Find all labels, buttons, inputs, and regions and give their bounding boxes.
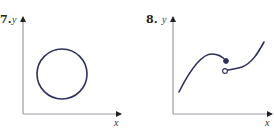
figure-7-y-label: y [11,14,17,25]
figure-8-left-branch [179,54,226,92]
figure-7-x-label: x [113,117,119,128]
figure-7-number: 7. [0,13,11,26]
figure-8-closed-dot [224,59,229,64]
figure-8-x-label: x [264,117,270,128]
figure-7-circle [37,49,87,99]
figure-7: 7. y x [0,13,121,128]
figure-8-right-branch [225,42,264,71]
figure-8-number: 8. [146,13,157,26]
figure-8-open-dot [223,69,228,74]
figure-8: 8. y x [146,13,272,128]
figure-8-y-label: y [161,14,167,25]
figure-canvas: 7. y x 8. y x [0,0,274,128]
